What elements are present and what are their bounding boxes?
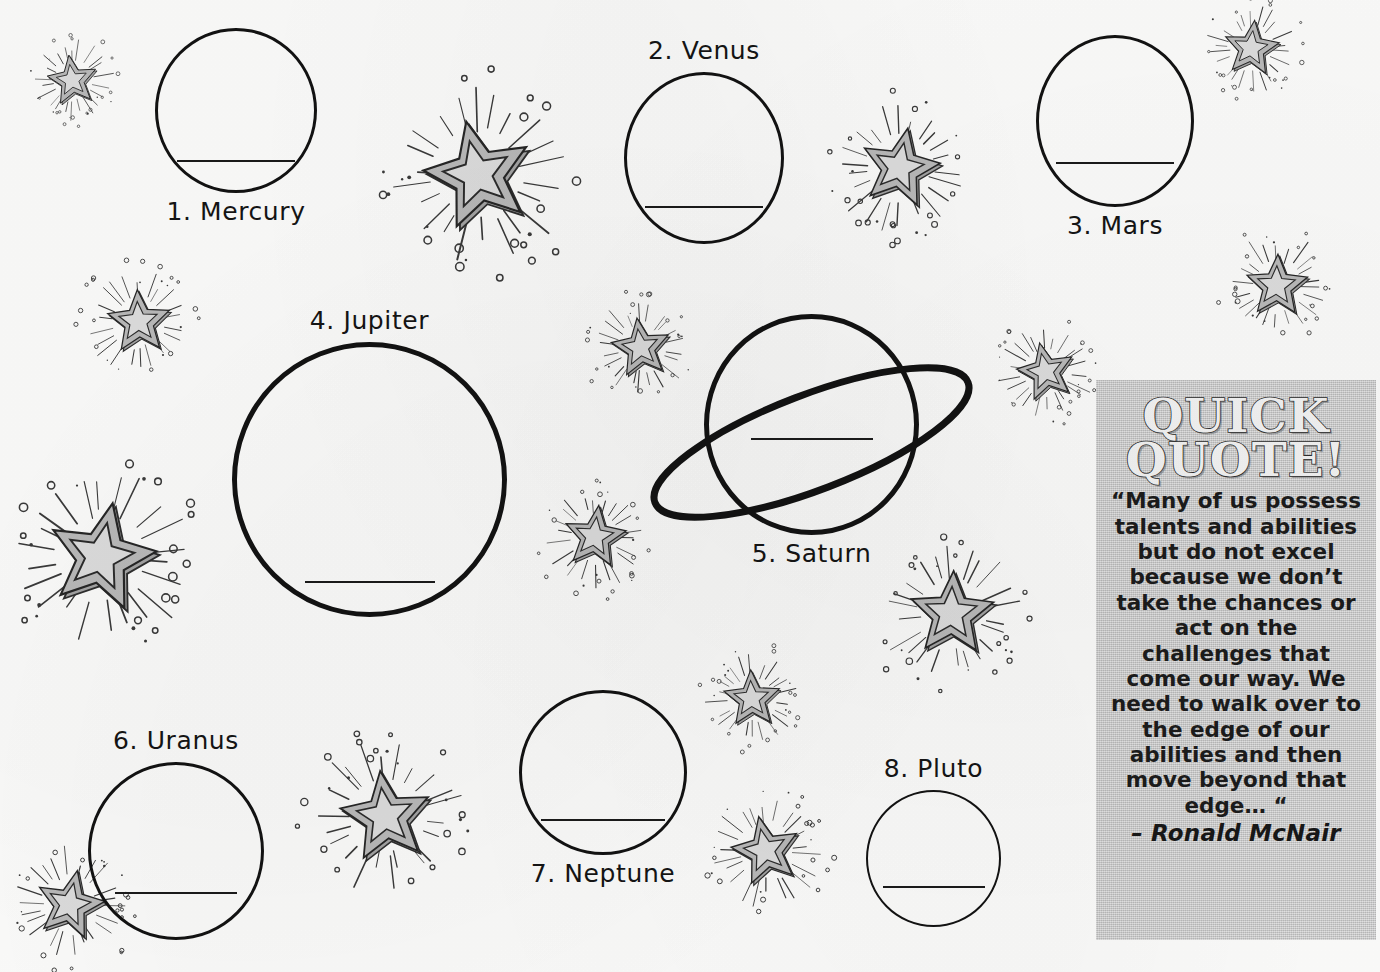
planet-answer-line[interactable] <box>177 160 295 162</box>
quick-quote-box: QUICK QUOTE! “Many of us possess talents… <box>1096 380 1376 940</box>
planet-answer-line[interactable] <box>305 581 435 583</box>
worksheet-page: 1. Mercury2. Venus3. Mars4. Jupiter5. Sa… <box>0 0 1380 972</box>
star-burst-icon <box>300 731 472 903</box>
star-burst-icon <box>0 455 204 660</box>
planet-answer-line[interactable] <box>883 886 985 888</box>
planet-item: 5. Saturn <box>704 314 919 535</box>
planet-label: 1. Mercury <box>115 197 357 226</box>
planet-circle <box>1036 35 1194 207</box>
planet-item: 2. Venus <box>624 72 784 244</box>
planet-label: 6. Uranus <box>48 726 304 755</box>
star-burst-icon <box>79 262 199 382</box>
planet-circle <box>704 314 919 535</box>
quote-text: “Many of us possess talents and abilitie… <box>1110 488 1362 818</box>
planet-item: 7. Neptune <box>519 690 687 855</box>
planet-item: 4. Jupiter <box>232 342 507 617</box>
planet-circle <box>624 72 784 244</box>
star-burst-icon <box>25 33 120 128</box>
planet-label: 7. Neptune <box>479 859 727 888</box>
star-burst-icon <box>698 645 806 753</box>
planet-label: 3. Mars <box>996 211 1234 240</box>
quote-title-line-2: QUOTE! <box>1110 438 1362 482</box>
planet-circle <box>232 342 507 617</box>
quick-quote-title: QUICK QUOTE! <box>1110 394 1362 482</box>
star-burst-icon <box>536 478 654 596</box>
planet-item: 6. Uranus <box>88 762 264 940</box>
planet-label: 8. Pluto <box>826 754 1041 783</box>
star-burst-icon <box>376 73 581 278</box>
star-burst-icon <box>1199 0 1304 101</box>
star-burst-icon <box>701 786 831 916</box>
star-burst-icon <box>825 93 975 243</box>
planet-circle <box>155 28 317 193</box>
planet-label: 2. Venus <box>584 36 824 65</box>
planet-label: 4. Jupiter <box>192 306 547 335</box>
star-burst-icon <box>1218 227 1336 345</box>
planet-circle <box>88 762 264 940</box>
planet-answer-line[interactable] <box>541 819 665 821</box>
planet-answer-line[interactable] <box>751 438 873 440</box>
planet-item: 1. Mercury <box>155 28 317 193</box>
planet-circle <box>866 790 1001 927</box>
star-burst-icon <box>585 292 697 404</box>
planet-item: 3. Mars <box>1036 35 1194 207</box>
planet-item: 8. Pluto <box>866 790 1001 927</box>
planet-answer-line[interactable] <box>1056 162 1174 164</box>
planet-answer-line[interactable] <box>115 892 237 894</box>
quote-attribution: – Ronald McNair <box>1110 820 1362 846</box>
planet-circle <box>519 690 687 855</box>
planet-label: 5. Saturn <box>664 539 959 568</box>
star-burst-icon <box>991 317 1101 427</box>
planet-answer-line[interactable] <box>645 206 763 208</box>
